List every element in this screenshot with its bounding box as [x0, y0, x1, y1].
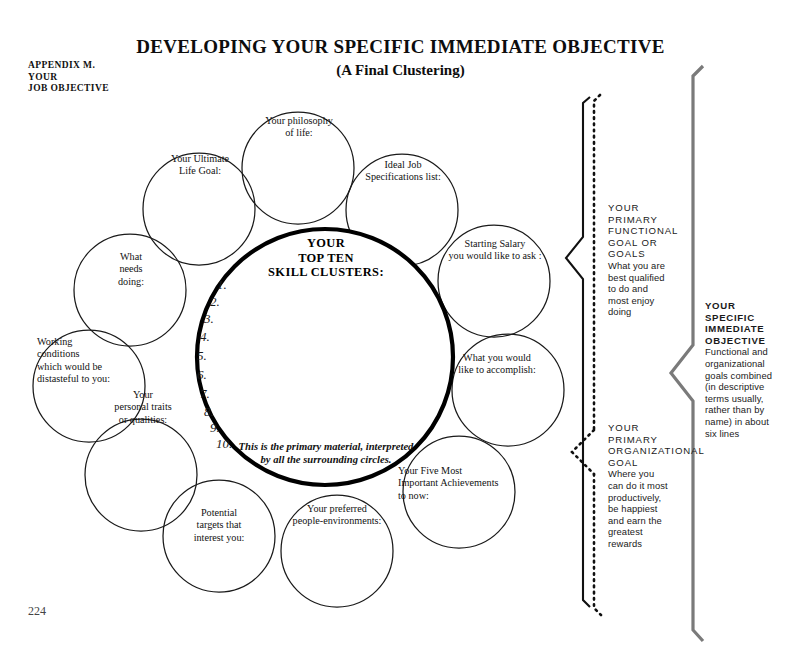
- dotted-guide-lower: [594, 474, 601, 615]
- cluster-number-9: 9.: [210, 420, 220, 436]
- circle-philosophy: [242, 112, 354, 224]
- cluster-number-6: 6.: [197, 367, 207, 383]
- clustering-diagram: [0, 0, 801, 669]
- cluster-number-3: 3.: [204, 311, 214, 327]
- center-heading: YOUR TOP TEN SKILL CLUSTERS:: [246, 236, 406, 280]
- annotation-functional-heading: YOUR PRIMARY FUNCTIONAL GOAL OR GOALS: [608, 202, 686, 260]
- annotation-organizational-heading: YOUR PRIMARY ORGANIZATIONAL GOAL: [608, 422, 688, 468]
- cluster-number-2: 2.: [210, 294, 220, 310]
- circle-starting-salary: [438, 225, 550, 337]
- center-footnote: This is the primary material, interprete…: [212, 440, 440, 466]
- annotation-functional-body: What you are best qualified to do and mo…: [608, 260, 686, 318]
- cluster-number-5: 5.: [197, 348, 207, 364]
- annotation-specific-immediate-objective: YOUR SPECIFIC IMMEDIATE OBJECTIVE Functi…: [705, 300, 791, 439]
- cluster-number-4: 4.: [200, 329, 210, 345]
- circle-potential-targets: [163, 480, 275, 592]
- annotation-organizational-body: Where you can do it most productively, b…: [608, 468, 688, 549]
- cluster-number-7: 7.: [200, 386, 210, 402]
- circle-what-needs-doing: [74, 234, 186, 346]
- circle-accomplish: [452, 334, 564, 446]
- brace-left-solid: [566, 97, 590, 607]
- cluster-number-1: 1.: [217, 277, 227, 293]
- circle-ultimate-life-goal: [143, 153, 255, 265]
- annotation-objective-body: Functional and organizational goals comb…: [705, 346, 791, 439]
- brace-right-gray: [671, 66, 703, 641]
- circle-working-conditions: [33, 330, 145, 442]
- annotation-objective-heading: YOUR SPECIFIC IMMEDIATE OBJECTIVE: [705, 300, 791, 346]
- cluster-number-8: 8.: [204, 404, 214, 420]
- annotation-primary-functional-goal: YOUR PRIMARY FUNCTIONAL GOAL OR GOALS Wh…: [608, 202, 686, 318]
- circle-people-environments: [281, 495, 393, 607]
- circle-personal-traits: [85, 419, 197, 531]
- dotted-guide-upper: [594, 95, 600, 430]
- annotation-primary-organizational-goal: YOUR PRIMARY ORGANIZATIONAL GOAL Where y…: [608, 422, 688, 550]
